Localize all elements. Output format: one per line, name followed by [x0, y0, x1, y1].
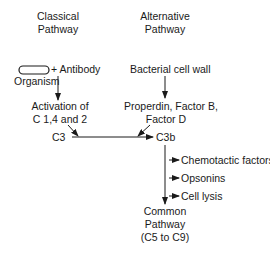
- factors-label: Properdin, Factor B, Factor D: [124, 100, 208, 126]
- common-pathway-label: Common Pathway (C5 to C9): [135, 205, 195, 244]
- common-line3: (C5 to C9): [135, 231, 195, 244]
- common-line1: Common: [135, 205, 195, 218]
- alternative-heading-line1: Alternative: [133, 10, 197, 23]
- complement-pathway-diagram: Classical Pathway Alternative Pathway + …: [0, 0, 270, 253]
- alternative-heading-line2: Pathway: [133, 23, 197, 36]
- bacterial-cell-wall-label: Bacterial cell wall: [130, 63, 211, 76]
- arrow-activation-to-c3-line: [68, 125, 78, 136]
- factors-line2: Factor D: [124, 113, 208, 126]
- classical-heading-line2: Pathway: [28, 23, 88, 36]
- c3-label: C3: [52, 131, 65, 144]
- effect-opsonins: Opsonins: [181, 172, 225, 185]
- organism-label: Organism: [14, 75, 60, 88]
- alternative-heading: Alternative Pathway: [133, 10, 197, 36]
- c3b-label: C3b: [156, 131, 175, 144]
- activation-line2: C 1,4 and 2: [25, 113, 95, 126]
- arrow-factors-to-c3-line: [138, 125, 150, 136]
- common-line2: Pathway: [135, 218, 195, 231]
- organism-shape: [19, 66, 49, 74]
- factors-line1: Properdin, Factor B,: [124, 100, 208, 113]
- effect-cell-lysis: Cell lysis: [181, 190, 222, 203]
- activation-line1: Activation of: [25, 100, 95, 113]
- effect-chemotactic-factors: Chemotactic factors: [181, 154, 270, 167]
- activation-label: Activation of C 1,4 and 2: [25, 100, 95, 126]
- classical-heading: Classical Pathway: [28, 10, 88, 36]
- classical-heading-line1: Classical: [28, 10, 88, 23]
